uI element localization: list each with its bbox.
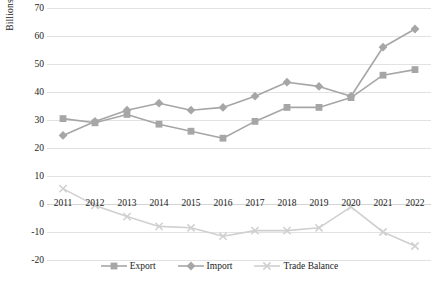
plot-area xyxy=(47,8,431,204)
data-point xyxy=(380,72,387,79)
x-tick-2014: 2014 xyxy=(150,198,169,208)
chart-legend: ExportImportTrade Balance xyxy=(0,256,439,276)
x-axis-tick-labels: 2011201220132014201520162017201820192020… xyxy=(47,198,431,214)
data-point xyxy=(155,99,164,108)
y-axis-title-label: Billions xyxy=(5,0,15,31)
data-point xyxy=(315,82,324,91)
x-tick-2018: 2018 xyxy=(278,198,297,208)
y-tick-0: 0 xyxy=(18,199,44,209)
x-tick-2016: 2016 xyxy=(214,198,233,208)
data-point xyxy=(283,78,292,87)
legend-marker-diamond xyxy=(178,261,204,271)
legend-label: Import xyxy=(207,261,233,271)
data-point xyxy=(411,25,420,34)
data-point xyxy=(188,128,195,135)
legend-marker-x xyxy=(254,261,280,271)
data-point xyxy=(59,185,66,192)
data-point xyxy=(411,242,418,249)
x-tick-2019: 2019 xyxy=(310,198,329,208)
data-point xyxy=(251,92,260,101)
data-point xyxy=(60,115,67,122)
y-tick-60: 60 xyxy=(18,31,44,41)
x-tick-2015: 2015 xyxy=(182,198,201,208)
x-tick-2012: 2012 xyxy=(86,198,105,208)
y-tick-50: 50 xyxy=(18,59,44,69)
legend-label: Export xyxy=(130,261,156,271)
x-tick-2017: 2017 xyxy=(246,198,265,208)
data-point xyxy=(186,262,195,271)
data-point xyxy=(379,228,386,235)
y-tick-70: 70 xyxy=(18,3,44,13)
legend-item-trade-balance[interactable]: Trade Balance xyxy=(254,261,338,271)
y-tick--10: -10 xyxy=(18,227,44,237)
data-point xyxy=(316,104,323,111)
legend-item-import[interactable]: Import xyxy=(178,261,233,271)
x-tick-2011: 2011 xyxy=(54,198,73,208)
chart-figure: Billions 706050403020100-10-20 201120122… xyxy=(0,0,439,283)
x-tick-2013: 2013 xyxy=(118,198,137,208)
series-export xyxy=(60,66,419,141)
data-point xyxy=(156,121,163,128)
data-point xyxy=(187,106,196,115)
series-import xyxy=(59,25,420,140)
y-axis-tick-labels: 706050403020100-10-20 xyxy=(18,8,44,204)
data-point xyxy=(220,135,227,142)
x-tick-2022: 2022 xyxy=(406,198,425,208)
data-point xyxy=(379,43,388,52)
data-point xyxy=(219,103,228,112)
y-tick-30: 30 xyxy=(18,115,44,125)
data-point xyxy=(412,66,419,73)
data-point xyxy=(110,263,117,270)
x-tick-2020: 2020 xyxy=(342,198,361,208)
x-tick-2021: 2021 xyxy=(374,198,393,208)
legend-marker-square xyxy=(101,261,127,271)
y-tick-40: 40 xyxy=(18,87,44,97)
data-point xyxy=(59,131,68,140)
y-tick-10: 10 xyxy=(18,171,44,181)
series-line xyxy=(63,29,415,135)
legend-label: Trade Balance xyxy=(283,261,338,271)
y-axis-title: Billions xyxy=(2,10,18,80)
data-point xyxy=(284,104,291,111)
legend-item-export[interactable]: Export xyxy=(101,261,156,271)
y-tick-20: 20 xyxy=(18,143,44,153)
series-trade-balance xyxy=(59,185,418,250)
data-point xyxy=(252,118,259,125)
